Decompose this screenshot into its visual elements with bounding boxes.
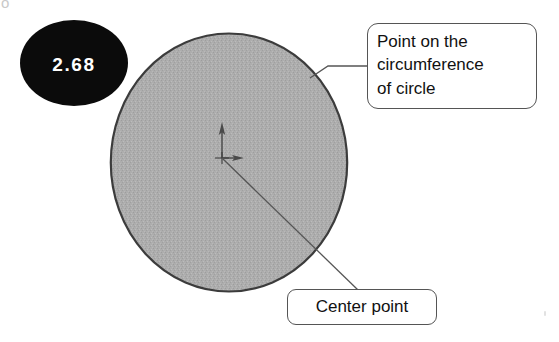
- dimension-value-badge[interactable]: 2.68: [20, 20, 128, 106]
- callout-circumference[interactable]: Point on the circumference of circle: [367, 23, 537, 109]
- callout-circumference-line-2: circumference: [377, 53, 527, 76]
- scan-artifact-corner-mark: o: [1, 0, 9, 10]
- leader-line-center-point: [215, 150, 370, 298]
- callout-center-point[interactable]: Center point: [287, 289, 437, 325]
- callout-center-point-label: Center point: [298, 295, 426, 318]
- figure-canvas: o: [0, 0, 559, 342]
- callout-circumference-line-3: of circle: [377, 77, 527, 100]
- scan-artifact-speck: [544, 311, 546, 316]
- callout-circumference-line-1: Point on the: [377, 30, 527, 53]
- dimension-value-text: 2.68: [52, 55, 95, 74]
